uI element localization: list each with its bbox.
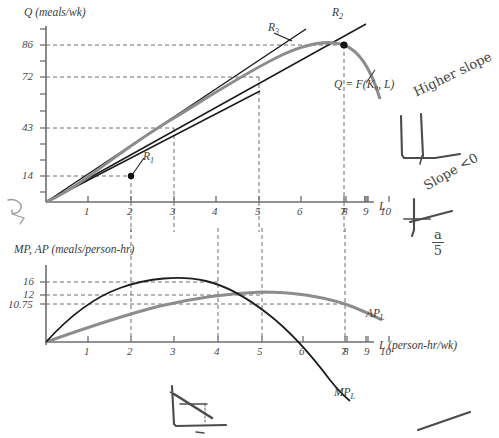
bottom-xtick-9: 9 bbox=[364, 345, 370, 357]
ray-R2-line bbox=[46, 24, 366, 202]
bottom-xtick-2: 2 bbox=[127, 345, 133, 357]
bridge-vertical-guides bbox=[131, 202, 344, 232]
top-xtick-1: 1 bbox=[84, 205, 90, 217]
figure-canvas bbox=[0, 0, 499, 438]
top-xtick-3: 3 bbox=[170, 205, 176, 217]
top-ytick-72: 72 bbox=[22, 70, 33, 82]
handwritten-fraction: a 5 bbox=[432, 228, 444, 257]
handwritten-fraction-denominator: 5 bbox=[432, 244, 444, 257]
top-horizontal-guides bbox=[46, 45, 344, 176]
point-R2-tangency bbox=[340, 41, 347, 48]
sketch-triangle-lower bbox=[170, 386, 226, 433]
bottom-ytick-16: 16 bbox=[23, 275, 34, 287]
top-xtick-9: 9 bbox=[363, 205, 369, 217]
handwritten-fraction-numerator: a bbox=[432, 228, 444, 241]
bottom-xtick-8: 8 bbox=[343, 345, 349, 357]
top-x-ticks bbox=[88, 196, 368, 202]
bottom-x-ticks bbox=[88, 336, 366, 342]
ray-R2-label: R2 bbox=[332, 6, 343, 21]
bottom-xtick-1: 1 bbox=[84, 345, 90, 357]
top-panel bbox=[40, 24, 380, 202]
bottom-ytick-1075: 10.75 bbox=[8, 298, 33, 310]
bottom-xtick-3: 3 bbox=[170, 345, 176, 357]
sketch-axes-upper bbox=[401, 114, 460, 164]
top-ytick-86: 86 bbox=[22, 38, 33, 50]
curve-marginal-product bbox=[46, 278, 350, 401]
bottom-xtick-5: 5 bbox=[257, 345, 263, 357]
ap-curve-label: APL bbox=[366, 307, 385, 322]
production-function-figure: Q (meals/wk) 86 72 43 14 1 2 3 4 5 6 7 L… bbox=[0, 0, 499, 438]
top-xtick-8: 8 bbox=[342, 205, 348, 217]
bottom-panel bbox=[40, 202, 382, 401]
bottom-y-ticks bbox=[40, 282, 46, 304]
bottom-xtick-6: 6 bbox=[299, 345, 305, 357]
bottom-xtick-10: 10 bbox=[380, 345, 391, 357]
top-xtick-6: 6 bbox=[297, 205, 303, 217]
top-xtick-4: 4 bbox=[212, 205, 218, 217]
sketch-marks-left bbox=[8, 200, 24, 224]
mp-curve-label: MPL bbox=[334, 386, 355, 401]
production-function-label: Q = F(K₀, L) bbox=[334, 78, 394, 90]
bottom-y-axis-title: MP, AP (meals/person-hr) bbox=[14, 243, 134, 255]
ray-R1-label: R1 bbox=[143, 150, 154, 165]
top-ytick-43: 43 bbox=[22, 121, 33, 133]
top-y-ticks bbox=[40, 29, 46, 192]
bottom-vertical-guides bbox=[131, 228, 345, 340]
top-ytick-14: 14 bbox=[22, 169, 33, 181]
bottom-xtick-4: 4 bbox=[214, 345, 220, 357]
sketch-stroke-bottom-right bbox=[418, 412, 470, 430]
top-vertical-guides bbox=[131, 45, 344, 200]
top-xtick-5: 5 bbox=[255, 205, 261, 217]
handwritten-sketches bbox=[8, 114, 470, 433]
top-y-axis-title: Q (meals/wk) bbox=[24, 6, 86, 18]
ray-R3-label: R3 bbox=[268, 21, 279, 36]
top-xtick-2: 2 bbox=[127, 205, 133, 217]
top-xtick-10: 10 bbox=[380, 205, 391, 217]
curve-total-product bbox=[46, 43, 380, 202]
sketch-axes-lower bbox=[404, 199, 452, 236]
